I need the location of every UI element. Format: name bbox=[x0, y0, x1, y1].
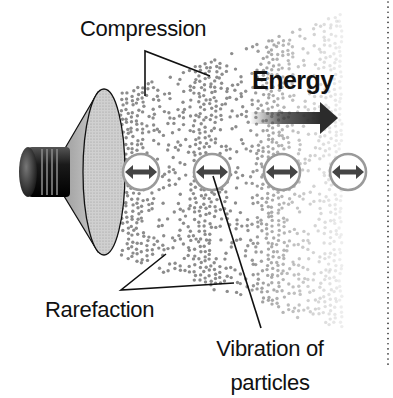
particle-marker bbox=[123, 154, 159, 190]
loudspeaker-icon bbox=[19, 89, 125, 255]
particle-marker bbox=[330, 154, 366, 190]
vibration-label: Vibration of particles bbox=[195, 332, 345, 398]
compression-label: Compression bbox=[80, 16, 206, 42]
compression-leader bbox=[145, 51, 210, 96]
particle-marker bbox=[194, 154, 230, 190]
vibration-leader bbox=[213, 176, 261, 328]
particle-marker bbox=[264, 154, 300, 190]
particle-markers bbox=[123, 154, 366, 190]
vibration-label-line1: Vibration of bbox=[195, 332, 345, 366]
energy-label: Energy bbox=[252, 66, 334, 95]
vibration-label-line2: particles bbox=[195, 366, 345, 398]
rarefaction-label: Rarefaction bbox=[45, 297, 154, 323]
sound-wave-diagram: Compression Energy Rarefaction Vibration… bbox=[0, 0, 393, 398]
